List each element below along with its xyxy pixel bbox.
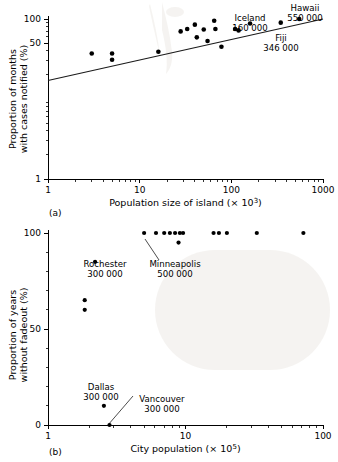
annotation-rochester-value: 300 000 (87, 269, 123, 279)
panel-a-xticklabel: 10 (134, 185, 146, 195)
annotation-minneapolis-name: Minneapolis (149, 259, 201, 269)
data-point (193, 22, 198, 27)
panel-a-ylabel-line1: Proportion of months (7, 49, 18, 149)
scientific-figure: 1101001000150100Iceland160 000Hawaii550 … (0, 0, 338, 462)
data-point (201, 27, 206, 32)
data-point (255, 231, 259, 235)
data-point (168, 231, 172, 235)
data-point (185, 27, 190, 32)
data-point (83, 298, 87, 302)
data-point (278, 20, 283, 25)
data-point (162, 231, 166, 235)
panel-b-tag: (b) (49, 447, 62, 457)
data-point (89, 51, 94, 56)
panel-b-xticklabel: 100 (314, 431, 331, 441)
panel-b-xticklabel: 1 (45, 431, 51, 441)
data-point (205, 39, 210, 44)
data-point (213, 27, 218, 32)
data-point (212, 18, 217, 23)
data-point (217, 231, 221, 235)
panel-b-yticklabel: 50 (30, 324, 42, 334)
panel-a-tag: (a) (49, 208, 62, 218)
annotation-hawaii-name: Hawaii (291, 3, 320, 13)
annotation-vancouver-value: 300 000 (144, 404, 180, 414)
annotation-minneapolis-value: 500 000 (157, 269, 193, 279)
panel-a-xticklabel: 100 (223, 185, 240, 195)
data-point (110, 57, 115, 62)
data-point (181, 231, 185, 235)
data-point (301, 231, 305, 235)
annotation-dallas-value: 300 000 (83, 392, 119, 402)
data-point (156, 49, 161, 54)
data-point (110, 51, 115, 56)
panel-b-xlabel: City population (× 105) (130, 443, 240, 455)
panel-a: 1101001000150100Iceland160 000Hawaii550 … (7, 3, 335, 218)
panel-b-xticklabel: 10 (180, 431, 192, 441)
data-point (225, 231, 229, 235)
annotation-iceland-name: Iceland (234, 13, 265, 23)
annotation-dallas-name: Dallas (88, 382, 115, 392)
data-point (83, 308, 87, 312)
annotation-iceland-value: 160 000 (232, 23, 268, 33)
data-point (194, 35, 199, 40)
panel-a-xticklabel: 1000 (312, 185, 335, 195)
data-point (176, 241, 180, 245)
panel-a-yticklabel: 50 (30, 38, 42, 48)
panel-b-yticklabel: 100 (24, 228, 41, 238)
annotation-vancouver-name: Vancouver (139, 394, 185, 404)
data-point (211, 231, 215, 235)
panel-b-yticklabel: 0 (35, 420, 41, 430)
data-point (102, 404, 106, 408)
data-point (178, 29, 183, 34)
annotation-fiji-value: 346 000 (263, 43, 299, 53)
annotation-hawaii-value: 550 000 (287, 13, 323, 23)
data-point (154, 231, 158, 235)
panel-a-xticklabel: 1 (45, 185, 51, 195)
annotation-rochester-name: Rochester (84, 259, 127, 269)
panel-b-ylabel-line2: without fadeout (%) (18, 288, 29, 383)
data-point (142, 231, 146, 235)
panel-a-yticklabel: 100 (24, 14, 41, 24)
annotation-fiji-name: Fiji (275, 33, 286, 43)
data-point (173, 231, 177, 235)
leader-line-minneapolis (145, 239, 159, 260)
panel-b-ylabel-line1: Proportion of years (7, 290, 18, 380)
panel-a-ylabel-line2: with cases notified (%) (18, 45, 29, 154)
figure-container: 1101001000150100Iceland160 000Hawaii550 … (0, 0, 338, 462)
panel-a-yticklabel: 1 (35, 174, 41, 184)
panel-a-xlabel: Population size of island (× 103) (109, 197, 262, 209)
data-point (219, 44, 224, 49)
